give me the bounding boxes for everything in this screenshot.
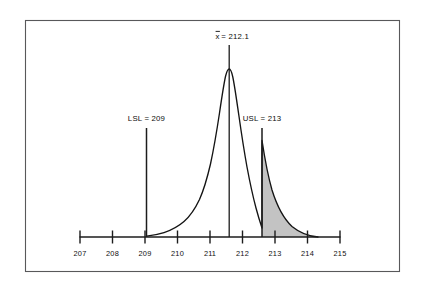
mean-label-symbol: x: [215, 32, 219, 41]
distribution-chart: 207 208 209 210 211 212 213 214 215 x = …: [0, 0, 425, 294]
normal-distribution-curve: [147, 69, 318, 237]
tick-label-212: 212: [236, 249, 249, 258]
tick-label-211: 211: [204, 249, 216, 258]
tick-label-213: 213: [269, 249, 282, 258]
out-of-spec-shaded-tail: [262, 141, 318, 238]
tick-label-210: 210: [171, 249, 184, 258]
figure-container: 207 208 209 210 211 212 213 214 215 x = …: [0, 0, 425, 294]
tick-label-207: 207: [74, 249, 87, 258]
usl-label: USL = 213: [243, 114, 282, 123]
lsl-label: LSL = 209: [128, 114, 165, 123]
figure-border: [26, 21, 400, 272]
mean-label-text: = 212.1: [221, 32, 249, 41]
x-axis-tick-labels: 207 208 209 210 211 212 213 214 215: [74, 249, 347, 258]
tick-label-209: 209: [139, 249, 152, 258]
mean-annotation: x = 212.1: [215, 31, 249, 41]
tick-label-214: 214: [301, 249, 314, 258]
tick-label-215: 215: [334, 249, 347, 258]
tick-label-208: 208: [106, 249, 119, 258]
